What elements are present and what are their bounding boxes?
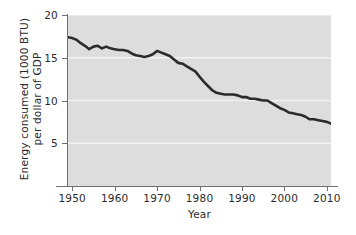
y-tick-mark — [62, 15, 68, 16]
gridlines — [68, 15, 331, 143]
y-tick-mark — [62, 143, 68, 144]
y-tick-mark — [62, 58, 68, 59]
x-tick-mark — [200, 186, 201, 191]
plot-svg — [68, 15, 331, 186]
x-tick-label: 2010 — [305, 193, 349, 204]
x-tick-mark — [115, 186, 116, 191]
x-axis-line — [56, 186, 338, 187]
x-tick-label: 2000 — [262, 193, 306, 204]
x-axis-title: Year — [68, 208, 331, 220]
x-tick-label: 1970 — [135, 193, 179, 204]
plot-area — [68, 15, 331, 186]
x-tick-label: 1950 — [50, 193, 94, 204]
x-tick-label: 1960 — [93, 193, 137, 204]
x-tick-mark — [327, 186, 328, 191]
data-series-line — [68, 37, 331, 123]
y-axis-title: Energy consumed (1000 BTU) per dollar of… — [18, 4, 44, 194]
y-tick-mark — [62, 101, 68, 102]
x-tick-mark — [157, 186, 158, 191]
x-tick-label: 1980 — [178, 193, 222, 204]
x-tick-mark — [284, 186, 285, 191]
x-tick-label: 1990 — [220, 193, 264, 204]
x-tick-mark — [242, 186, 243, 191]
chart-screenshot: 5101520 1950196019701980199020002010 Yea… — [0, 0, 356, 235]
x-tick-mark — [72, 186, 73, 191]
